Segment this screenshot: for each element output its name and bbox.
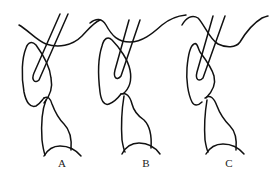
- root-left-edge: [42, 100, 46, 155]
- instrument-loop: [196, 16, 225, 80]
- root-base-arc: [44, 146, 81, 156]
- instrument-loop: [114, 20, 140, 78]
- membrane-curve: [90, 15, 186, 42]
- root-left-edge: [205, 100, 208, 152]
- panel-a: [19, 14, 100, 156]
- root-outline: [44, 97, 71, 150]
- root-base-arc: [206, 144, 244, 154]
- crown-outline: [187, 44, 215, 105]
- root-left-edge: [122, 96, 125, 152]
- panel-label-a: A: [58, 157, 66, 169]
- root-outline: [121, 93, 151, 148]
- root-base-arc: [122, 143, 160, 154]
- panel-label-b: B: [142, 157, 149, 169]
- root-outline: [205, 96, 236, 150]
- panel-c: [182, 16, 268, 154]
- panel-b: [90, 15, 186, 154]
- figure-canvas: [0, 0, 280, 179]
- panel-label-c: C: [225, 157, 232, 169]
- membrane-curve: [182, 16, 268, 47]
